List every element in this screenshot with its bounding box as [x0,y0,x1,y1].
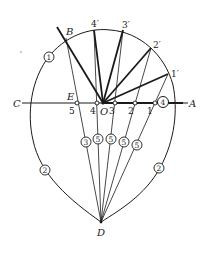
svg-text:2: 2 [157,164,162,173]
circled-label-4: 4 [158,97,169,108]
axis-num-2: 2 [128,106,134,116]
svg-text:5: 5 [135,141,140,150]
point-o-dot [101,101,104,104]
label-b: B [65,26,73,37]
label-4prime: 4′ [91,19,99,29]
svg-text:5: 5 [96,135,101,144]
stray-dot [20,51,21,52]
label-2prime: 2′ [153,40,161,50]
circled-label-2-right: 2 [154,163,164,173]
circled-label-5b: 5 [106,134,116,144]
axis-num-4: 4 [90,106,96,116]
axis-num-5: 5 [69,106,75,116]
svg-text:4: 4 [161,98,166,107]
circled-label-1: 1 [44,52,54,62]
label-1prime: 1′ [171,69,179,79]
svg-text:1: 1 [47,53,52,62]
svg-text:3: 3 [84,138,89,147]
label-c: C [13,98,21,109]
label-a: A [188,98,196,109]
label-e: E [66,91,75,102]
svg-text:2: 2 [43,166,48,175]
axis-num-3: 3 [109,106,115,116]
line-b-d [66,38,101,222]
label-d: D [96,227,105,238]
svg-text:5: 5 [122,138,127,147]
circled-label-5c: 5 [119,137,129,147]
label-3prime: 3′ [122,20,130,30]
construction-diagram: C A B E O D 5 4 3 2 1 4′ 3′ 2′ 1′ 1 4 2 … [0,0,202,254]
circled-label-3: 3 [81,137,91,147]
circled-label-5d: 5 [132,140,142,150]
point-d-dot [100,221,103,224]
axis-num-1: 1 [147,106,153,116]
line-3prime-d [101,30,123,222]
circled-label-5a: 5 [93,134,103,144]
circled-label-2-left: 2 [40,165,50,175]
label-o: O [100,106,108,117]
svg-text:5: 5 [109,135,114,144]
